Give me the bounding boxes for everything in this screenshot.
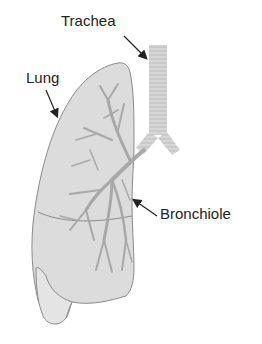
trachea-shape (136, 45, 180, 155)
bronchiole-label: Bronchiole (160, 206, 231, 221)
trachea-arrow (124, 36, 146, 58)
trachea-label: Trachea (61, 13, 115, 28)
lung-label: Lung (26, 70, 59, 85)
lung-arrow (46, 90, 57, 116)
lung-diagram (0, 0, 262, 344)
lung-shape (32, 63, 134, 324)
bronchiole-arrow (134, 200, 157, 216)
